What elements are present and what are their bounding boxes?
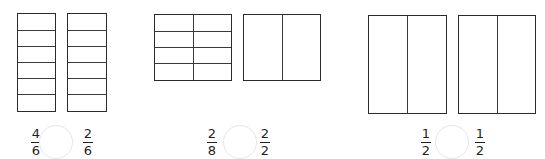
fraction-model-right (67, 13, 107, 112)
comparison-answer-circle[interactable] (39, 125, 73, 159)
denominator: 6 (84, 144, 92, 158)
row-divider (18, 94, 55, 95)
column-divider (407, 16, 408, 113)
comparison-answer-circle[interactable] (223, 125, 257, 159)
comparison-answer-circle[interactable] (435, 125, 469, 159)
numerator: 1 (476, 127, 484, 141)
denominator: 2 (476, 144, 484, 158)
column-divider (497, 16, 498, 113)
row-divider (68, 78, 106, 79)
fraction-model-left (368, 15, 447, 114)
numerator: 2 (208, 127, 216, 141)
fraction-model-right (243, 14, 321, 81)
column-divider (193, 15, 194, 80)
fraction-right: 12 (474, 127, 486, 158)
row-divider (68, 30, 106, 31)
column-divider (282, 15, 283, 80)
denominator: 2 (422, 144, 430, 158)
denominator: 2 (261, 144, 269, 158)
fraction-right: 26 (82, 127, 94, 158)
numerator: 2 (84, 127, 92, 141)
numerator: 1 (422, 127, 430, 141)
fraction-left: 12 (420, 127, 432, 158)
fraction-model-left (154, 14, 232, 81)
fraction-model-right (458, 15, 536, 114)
fraction-left: 28 (206, 127, 218, 158)
row-divider (18, 78, 55, 79)
row-divider (18, 46, 55, 47)
row-divider (68, 46, 106, 47)
denominator: 8 (208, 144, 216, 158)
fraction-right: 22 (259, 127, 271, 158)
numerator: 2 (261, 127, 269, 141)
row-divider (68, 62, 106, 63)
row-divider (18, 62, 55, 63)
row-divider (18, 30, 55, 31)
row-divider (68, 94, 106, 95)
fraction-model-left (17, 13, 56, 112)
